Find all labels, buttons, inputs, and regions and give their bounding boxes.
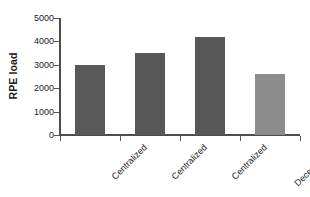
x-axis-tick-mark (240, 136, 241, 141)
bar (195, 37, 225, 135)
bar (75, 65, 105, 135)
x-axis-tick-mark (300, 136, 301, 141)
plot-area (60, 18, 300, 135)
x-axis-tick-mark (120, 136, 121, 141)
bar (135, 53, 165, 135)
bar (255, 74, 285, 135)
x-axis-tick-mark (180, 136, 181, 141)
x-axis-tick-mark (60, 136, 61, 141)
bar-chart: RPE load 010002000300040005000 Centraliz… (0, 0, 310, 197)
